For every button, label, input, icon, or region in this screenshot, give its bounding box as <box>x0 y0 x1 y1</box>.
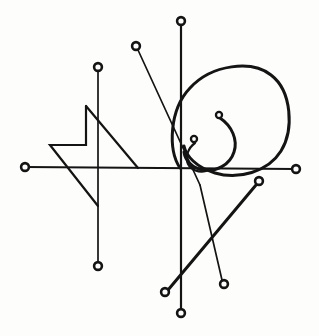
terminal-left-axis <box>21 163 29 171</box>
horizontal-axis <box>25 167 295 169</box>
terminal-top-axis <box>177 17 185 25</box>
terminal-spiral-inner <box>191 136 197 142</box>
stroke-layer <box>25 26 295 308</box>
inner-spiral-outer-turn <box>184 118 235 170</box>
terminal-left-stem-bottom <box>94 262 102 270</box>
terminal-upper-right-ascender <box>255 177 263 185</box>
terminal-lower-center-diagonal <box>220 280 228 288</box>
terminal-left-stem-top <box>94 63 102 71</box>
zigzag-bolt <box>50 106 98 206</box>
bolt-diagonal <box>86 106 138 168</box>
sigil-canvas <box>0 0 319 336</box>
terminal-upper-left-diagonal <box>132 42 140 50</box>
terminal-right-axis <box>292 165 300 173</box>
sigil-drawing <box>0 0 319 336</box>
lower-center-diagonal <box>200 185 222 280</box>
terminal-spiral-outer <box>216 112 222 118</box>
terminal-lower-left-ascender <box>161 288 169 296</box>
terminal-bottom-axis <box>177 309 185 317</box>
